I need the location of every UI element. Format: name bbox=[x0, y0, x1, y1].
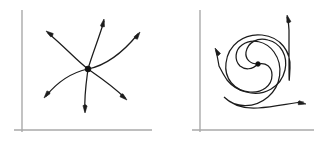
traj-down-arrowhead bbox=[83, 105, 87, 113]
traj-lower-right-arrowhead bbox=[120, 94, 127, 100]
traj-up bbox=[88, 21, 104, 69]
unstable-node-panel bbox=[14, 10, 152, 132]
traj-upper-left-arrowhead bbox=[46, 31, 53, 37]
spiral-arm-lower-right bbox=[224, 41, 303, 108]
traj-upper-right-arrowhead bbox=[134, 32, 140, 39]
spiral-arm-upper-right-arrowhead bbox=[287, 15, 291, 23]
traj-lower-right bbox=[88, 69, 125, 98]
phase-portrait-figure bbox=[0, 0, 316, 145]
spiral-arm-lower-right-arrowhead bbox=[298, 101, 306, 105]
unstable-node-fixed-point bbox=[85, 66, 91, 72]
traj-lower-left bbox=[46, 69, 88, 96]
traj-lower-left-arrowhead bbox=[44, 91, 50, 98]
phase-portrait-canvas bbox=[0, 0, 316, 145]
unstable-spiral-fixed-point bbox=[256, 62, 261, 67]
traj-upper-right bbox=[88, 34, 138, 69]
spiral-arm-left bbox=[216, 39, 286, 93]
traj-up-arrowhead bbox=[100, 19, 104, 27]
unstable-spiral-panel bbox=[192, 10, 314, 132]
traj-upper-left bbox=[48, 33, 88, 69]
spiral-arm-left-arrowhead bbox=[215, 48, 220, 56]
